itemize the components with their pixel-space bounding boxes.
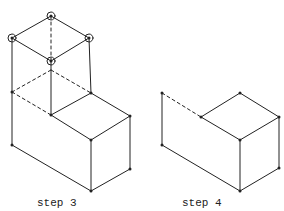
step3-drawing bbox=[12, 16, 130, 191]
step3-caption: step 3 bbox=[37, 197, 77, 209]
step4-drawing bbox=[162, 93, 279, 191]
diagram-drawing bbox=[0, 0, 284, 211]
isometric-steps-diagram: step 3 step 4 bbox=[0, 0, 284, 211]
step3-circled-points bbox=[8, 12, 93, 65]
step4-caption: step 4 bbox=[182, 197, 222, 209]
